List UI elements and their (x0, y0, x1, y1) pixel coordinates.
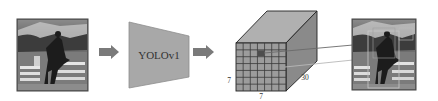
arrow-input-to-model (99, 45, 119, 59)
input-image (17, 19, 88, 91)
tensor-height-label: 7 (227, 76, 231, 85)
tensor-width-label: 7 (259, 92, 263, 101)
yolo-diagram: YOLOv1 7 7 30 (0, 0, 438, 101)
highlighted-grid-cell (258, 50, 264, 56)
tensor-depth-label: 30 (301, 73, 309, 82)
detection-image (352, 19, 416, 90)
model-label: YOLOv1 (138, 49, 180, 61)
yolov1-model-block: YOLOv1 (129, 22, 189, 88)
arrow-model-to-tensor (193, 45, 214, 59)
